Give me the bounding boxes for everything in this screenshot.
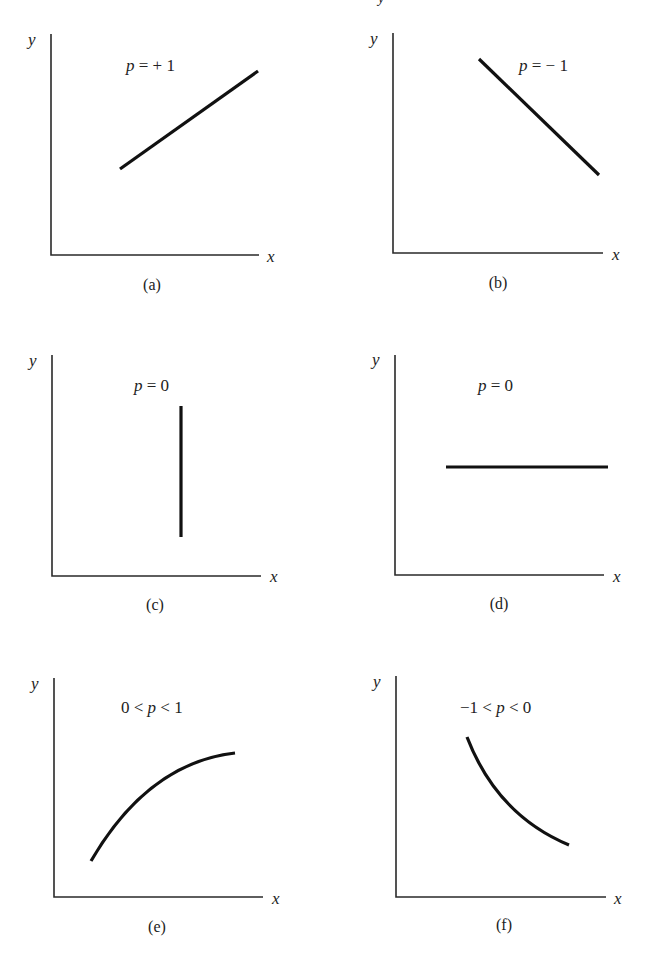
panel-a: y x p = + 1 (a) [26, 30, 275, 294]
panel-d: y x p = 0 (d) [370, 350, 621, 613]
elasticity-diagram-figure: y y x p = + 1 (a) y x p = − 1 (b) y x p … [0, 0, 651, 953]
panel-caption: (a) [143, 276, 161, 294]
relation-value: < 0 [505, 698, 532, 717]
x-axis-label: x [611, 245, 620, 264]
y-axis-label: y [27, 351, 37, 370]
x-axis-label: x [271, 889, 280, 908]
relation-value: = − 1 [528, 56, 568, 75]
panel-caption: (e) [148, 918, 166, 936]
data-line [120, 71, 258, 169]
relation-value: = 0 [143, 376, 170, 395]
x-axis-label: x [613, 889, 622, 908]
relation-value: = + 1 [135, 56, 175, 75]
panel-e: y x 0 < p < 1 (e) [29, 674, 280, 936]
relation-label: p = + 1 [125, 56, 175, 75]
axes [393, 33, 603, 253]
panel-b: y x p = − 1 (b) [368, 29, 620, 292]
panel-caption: (d) [490, 595, 509, 613]
relation-value: < 1 [156, 698, 183, 717]
y-axis-label: y [26, 30, 36, 49]
clipped-top-glyph: y [376, 0, 385, 6]
panel-c: y x p = 0 (c) [27, 351, 278, 614]
data-curve [467, 737, 569, 845]
y-axis-label: y [371, 672, 381, 691]
x-axis-label: x [266, 247, 275, 266]
relation-variable: p [133, 376, 143, 395]
y-axis-label: y [370, 350, 380, 369]
relation-variable: p [147, 698, 157, 717]
relation-label: p = 0 [477, 376, 513, 395]
relation-label: p = − 1 [518, 56, 568, 75]
relation-label: −1 < p < 0 [460, 698, 531, 717]
panel-caption: (b) [489, 274, 508, 292]
relation-label: p = 0 [133, 376, 169, 395]
y-axis-label: y [29, 674, 39, 693]
panel-f: y x −1 < p < 0 (f) [371, 672, 622, 934]
x-axis-label: x [269, 567, 278, 586]
relation-variable: p [125, 56, 135, 75]
relation-value: = 0 [487, 376, 514, 395]
relation-lower-bound: −1 < [460, 698, 496, 717]
data-line [479, 59, 599, 175]
panel-caption: (c) [146, 596, 164, 614]
relation-lower-bound: 0 < [121, 698, 148, 717]
y-axis-label: y [368, 29, 378, 48]
relation-variable: p [495, 698, 505, 717]
relation-variable: p [518, 56, 528, 75]
relation-label: 0 < p < 1 [121, 698, 183, 717]
relation-variable: p [477, 376, 487, 395]
panel-caption: (f) [496, 916, 512, 934]
x-axis-label: x [612, 567, 621, 586]
data-curve [91, 753, 235, 861]
